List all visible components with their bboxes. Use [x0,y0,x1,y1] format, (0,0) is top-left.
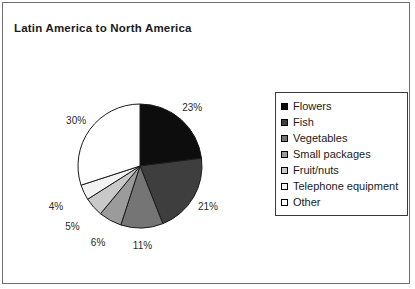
pie-slice-label: 6% [91,237,105,248]
legend-item-label: Telephone equipment [293,181,398,192]
legend-item[interactable]: Other [281,194,403,210]
legend-item[interactable]: Vegetables [281,130,403,146]
legend-swatch-icon [281,183,288,190]
legend-item-label: Other [293,197,321,208]
legend-item[interactable]: Fish [281,114,403,130]
legend-item-label: Small packages [293,149,371,160]
legend-item[interactable]: Telephone equipment [281,178,403,194]
legend-swatch-icon [281,119,288,126]
pie-slice-label: 21% [198,201,218,212]
legend-item-label: Fish [293,117,314,128]
pie-slice-label: 5% [65,220,79,231]
legend-item[interactable]: Small packages [281,146,403,162]
pie-slice-label: 30% [66,114,86,125]
pie-slice-label: 23% [182,101,202,112]
legend-swatch-icon [281,151,288,158]
pie-slice-label: 4% [49,200,63,211]
pie-slice[interactable] [140,104,202,166]
pie-slice-label: 11% [133,240,152,251]
legend-swatch-icon [281,167,288,174]
legend-item[interactable]: Flowers [281,98,403,114]
chart-legend: FlowersFishVegetablesSmall packagesFruit… [275,92,408,216]
legend-swatch-icon [281,103,288,110]
legend-swatch-icon [281,199,288,206]
legend-item-label: Vegetables [293,133,347,144]
legend-item[interactable]: Fruit/nuts [281,162,403,178]
legend-item-label: Fruit/nuts [293,165,339,176]
legend-swatch-icon [281,135,288,142]
legend-item-label: Flowers [293,101,332,112]
